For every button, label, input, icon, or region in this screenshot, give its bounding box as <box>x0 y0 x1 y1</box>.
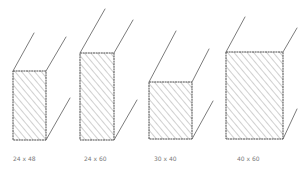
box-4: 40 x 60 <box>226 17 297 162</box>
box-4-label: 40 x 60 <box>237 155 260 162</box>
box-3-edge-bottom-right <box>192 101 213 139</box>
box-2-label: 24 x 60 <box>84 155 107 162</box>
box-2-front-face <box>80 53 114 140</box>
box-3-front-face <box>149 82 192 139</box>
box-3-edge-top-left <box>149 31 176 82</box>
canvas-size-diagram: 24 x 48 24 x 60 30 x 40 40 x 60 <box>0 0 304 171</box>
box-3-edge-top-right <box>192 49 209 82</box>
box-4-edge-top-right <box>283 28 297 52</box>
box-4-front-face <box>226 52 283 139</box>
box-1-edge-bottom-right <box>46 98 70 140</box>
box-2-edge-bottom-right <box>114 100 137 140</box>
box-4-edge-bottom-right <box>283 109 297 139</box>
box-2-edge-top-left <box>80 9 105 53</box>
box-3-label: 30 x 40 <box>154 155 177 162</box>
box-3: 30 x 40 <box>149 31 213 162</box>
box-1-label: 24 x 48 <box>13 155 36 162</box>
box-1-edge-top-right <box>46 37 66 71</box>
box-1-edge-top-left <box>13 33 34 71</box>
box-2: 24 x 60 <box>80 9 137 162</box>
box-1-front-face <box>13 71 46 140</box>
box-4-edge-top-left <box>226 17 245 52</box>
box-1: 24 x 48 <box>13 33 70 162</box>
box-2-edge-top-right <box>114 20 133 53</box>
